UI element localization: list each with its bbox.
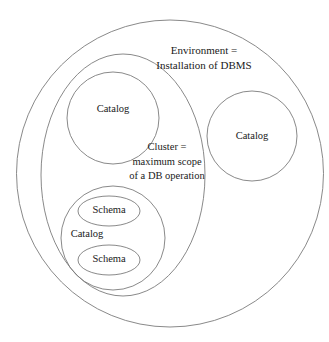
catalog-top-left-circle xyxy=(67,72,159,164)
schema-upper-label: Schema xyxy=(92,204,126,215)
environment-label-line2: Installation of DBMS xyxy=(156,59,251,71)
nested-set-diagram: Environment = Installation of DBMS Clust… xyxy=(0,0,329,342)
cluster-label-line1: Cluster = xyxy=(148,141,187,152)
cluster-label-line3: of a DB operation xyxy=(129,170,205,181)
schema-lower-label: Schema xyxy=(92,253,126,264)
environment-label-line1: Environment = xyxy=(171,44,237,56)
catalog-right-label: Catalog xyxy=(236,130,269,141)
diagram-canvas: Environment = Installation of DBMS Clust… xyxy=(0,0,329,342)
catalog-top-left-label: Catalog xyxy=(97,103,130,114)
catalog-bottom-left-label: Catalog xyxy=(71,228,104,239)
cluster-label-line2: maximum scope xyxy=(132,156,201,167)
